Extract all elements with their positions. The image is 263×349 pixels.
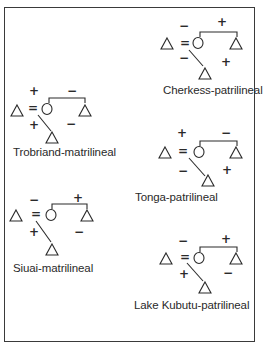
descent-line (187, 263, 203, 281)
male-triangle-icon (79, 105, 91, 116)
female-circle-icon (193, 38, 203, 49)
marriage-sign: = (31, 207, 41, 221)
male-triangle-icon (230, 147, 242, 158)
sign-brother-sister: − (221, 126, 231, 140)
sign-mb-zs: − (74, 225, 84, 239)
sign-mb-zs: − (223, 266, 233, 280)
label-tonga: Tonga-patrilineal (135, 191, 218, 203)
male-triangle-icon (10, 210, 22, 221)
male-triangle-icon (202, 175, 214, 186)
descent-line (189, 158, 205, 176)
male-triangle-icon (199, 68, 211, 79)
sibling-bracket (200, 32, 237, 37)
female-circle-icon (46, 210, 56, 221)
male-triangle-icon (46, 132, 58, 143)
sign-brother-sister: + (73, 191, 83, 205)
sign-brother-sister: − (67, 84, 77, 98)
sign-mb-zs: − (66, 117, 76, 131)
male-triangle-icon (160, 253, 172, 264)
descent-line (38, 115, 51, 131)
sign-husband-wife: − (178, 234, 188, 248)
panel-kubutu: = − + + − (160, 232, 242, 293)
sign-mb-zs: + (221, 55, 231, 69)
label-kubutu: Lake Kubutu-patrilineal (134, 299, 249, 311)
male-triangle-icon (11, 105, 23, 116)
marriage-sign: = (180, 250, 190, 264)
sign-husband-wife: − (29, 193, 39, 207)
marriage-sign: = (178, 144, 188, 158)
sibling-bracket (49, 98, 85, 103)
marriage-sign: = (28, 101, 38, 115)
male-triangle-icon (161, 38, 173, 49)
panel-cherkess: = − + − + (161, 15, 242, 79)
sign-husband-wife: − (179, 19, 189, 33)
panel-tonga: = + − − + (159, 126, 242, 186)
sign-mb-zs: + (222, 163, 232, 177)
label-trobriand: Trobriand-matrilineal (13, 146, 116, 158)
sign-husband-wife: + (29, 84, 39, 98)
sibling-bracket (200, 141, 237, 146)
female-circle-icon (42, 104, 52, 115)
sign-father-son: + (179, 267, 189, 281)
female-circle-icon (194, 147, 204, 158)
label-cherkess: Cherkess-patrilineal (163, 84, 263, 96)
sign-father-son: + (29, 225, 39, 239)
male-triangle-icon (46, 244, 58, 255)
descent-line (189, 50, 203, 66)
male-triangle-icon (159, 147, 171, 158)
male-triangle-icon (81, 210, 93, 221)
panel-trobriand: = + − + − (11, 84, 91, 143)
sign-father-son: − (178, 164, 188, 178)
sign-brother-sister: + (221, 232, 231, 246)
female-circle-icon (194, 253, 204, 264)
sign-father-son: − (179, 51, 189, 65)
sibling-bracket (200, 247, 237, 252)
male-triangle-icon (230, 38, 242, 49)
panel-siuai: = − + + − (10, 191, 93, 255)
label-siuai: Siuai-matrilineal (13, 262, 93, 274)
sign-brother-sister: + (217, 15, 227, 29)
sign-father-son: + (29, 118, 39, 132)
male-triangle-icon (230, 253, 242, 264)
marriage-sign: = (180, 36, 190, 50)
male-triangle-icon (199, 282, 211, 293)
sign-husband-wife: + (177, 126, 187, 140)
kinship-diagrams: = − + − + = + − + − = + − − + (0, 0, 263, 349)
